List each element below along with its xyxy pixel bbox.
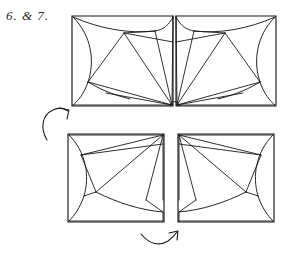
rotation-arrow-bottom-shaft [141,232,177,244]
step-label: 6. & 7. [6,8,49,24]
bottom-left-panel-outline [68,134,164,222]
bottom-right-panel [178,134,274,222]
top-right-panel-outline [176,16,276,106]
bottom-right-panel-outline [178,134,274,222]
bottom-left-panel [68,134,164,222]
rotation-arrow-left [43,108,69,140]
rotation-arrow-left-head [60,108,69,119]
origami-diagram: 6. & 7. [0,0,291,257]
rotation-arrow-left-shaft [43,108,68,140]
top-right-panel [176,16,276,106]
rotation-arrow-bottom [141,231,178,244]
top-left-panel-outline [72,16,173,106]
diagram-canvas [0,0,291,257]
top-left-panel [72,16,173,106]
